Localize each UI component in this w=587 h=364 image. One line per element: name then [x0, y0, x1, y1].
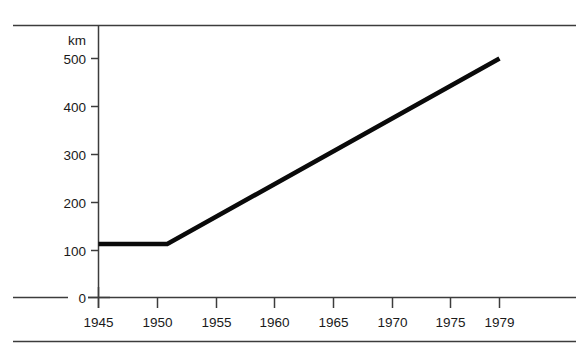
- x-axis-label-1945: 1945: [83, 315, 113, 330]
- y-axis-label-0: 0: [78, 291, 86, 306]
- x-axis-label-1950: 1950: [142, 315, 172, 330]
- x-axis-label-1975: 1975: [435, 315, 465, 330]
- y-axis-label-400: 400: [63, 100, 86, 115]
- line-chart-figure: km 500 400 300 200 100 0 1945 1950 1955 …: [0, 0, 587, 364]
- y-axis-label-500: 500: [63, 52, 86, 67]
- y-axis-label-200: 200: [63, 196, 86, 211]
- y-axis-label-300: 300: [63, 148, 86, 163]
- x-axis-label-1970: 1970: [377, 315, 407, 330]
- x-axis-label-1960: 1960: [259, 315, 289, 330]
- chart-page: km 500 400 300 200 100 0 1945 1950 1955 …: [0, 0, 587, 364]
- y-axis-unit-label: km: [68, 33, 86, 48]
- x-axis-label-1965: 1965: [318, 315, 348, 330]
- x-axis-label-1979: 1979: [484, 315, 514, 330]
- x-axis-label-1955: 1955: [201, 315, 231, 330]
- y-axis-label-100: 100: [63, 244, 86, 259]
- data-series-line: [99, 59, 500, 244]
